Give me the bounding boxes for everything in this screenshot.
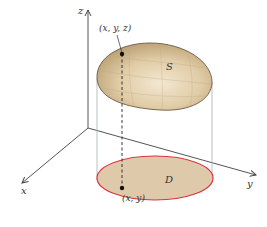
surface-s-shape: [97, 43, 212, 110]
surface-s-label: S: [166, 61, 173, 72]
region-d: D: [97, 156, 213, 200]
x-axis-label: x: [21, 185, 27, 196]
surface-s: S: [97, 43, 212, 110]
x-axis: [22, 128, 88, 183]
region-d-ellipse: [97, 156, 213, 200]
point-xyz-label: (x, y, z): [99, 23, 132, 33]
point-xy-dot: [120, 186, 124, 190]
surface-projection-diagram: z x y D S (x, y, z) (x, y): [0, 0, 267, 227]
z-axis-label: z: [77, 5, 84, 16]
point-xyz-dot: [120, 52, 124, 56]
region-d-label: D: [164, 174, 173, 185]
point-xy-label: (x, y): [122, 193, 145, 203]
y-axis-label: y: [246, 178, 253, 189]
